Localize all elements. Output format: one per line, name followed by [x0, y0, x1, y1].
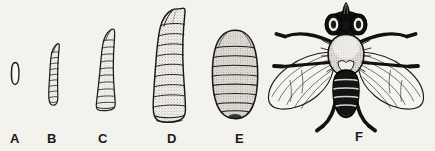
- fly-abdomen: [333, 70, 359, 118]
- life-cycle-illustration: [0, 0, 435, 151]
- stage-e-pupa-drawing: [212, 30, 257, 119]
- stage-a-egg-drawing: [11, 63, 19, 85]
- stage-label-d: D: [167, 132, 177, 145]
- fly-life-cycle-figure: A B C D E F Life cycle stages of the hou…: [0, 0, 435, 151]
- stage-label-e: E: [235, 132, 244, 145]
- stage-label-f: F: [355, 130, 363, 143]
- stage-label-c: C: [98, 132, 108, 145]
- stage-label-b: B: [47, 132, 57, 145]
- stage-label-a: A: [10, 132, 20, 145]
